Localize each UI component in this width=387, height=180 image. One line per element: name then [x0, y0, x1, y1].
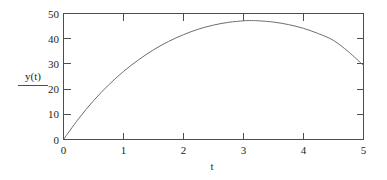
- y-axis-title-group: y(t): [18, 70, 48, 86]
- x-tick-labels: 0 1 2 3 4 5: [61, 144, 367, 156]
- y-tick-label-30: 30: [48, 58, 60, 70]
- y-tick-label-20: 20: [48, 83, 60, 95]
- y-tick-label-10: 10: [48, 108, 60, 120]
- data-curve-y-of-t: [64, 21, 364, 140]
- x-tick-label-5: 5: [361, 144, 367, 156]
- y-axis-title: y(t): [25, 70, 41, 83]
- chart-figure: 50 40 30 20 10 0 0 1 2 3 4 5 t y(t): [0, 0, 387, 180]
- y-tick-labels: 50 40 30 20 10 0: [48, 8, 60, 146]
- y-tick-label-0: 0: [54, 134, 60, 146]
- data-series-group: [64, 21, 364, 140]
- x-tick-label-3: 3: [241, 144, 247, 156]
- x-tick-label-4: 4: [301, 144, 307, 156]
- x-tick-label-0: 0: [61, 144, 67, 156]
- x-tick-label-1: 1: [121, 144, 127, 156]
- x-axis-title: t: [210, 160, 213, 172]
- plot-frame: [64, 14, 364, 140]
- x-axis-ticks: [64, 14, 364, 140]
- y-tick-label-40: 40: [48, 33, 60, 45]
- x-tick-label-2: 2: [181, 144, 187, 156]
- chart-canvas: 50 40 30 20 10 0 0 1 2 3 4 5 t y(t): [0, 0, 387, 180]
- y-axis-ticks: [64, 14, 364, 140]
- y-tick-label-50: 50: [48, 8, 60, 20]
